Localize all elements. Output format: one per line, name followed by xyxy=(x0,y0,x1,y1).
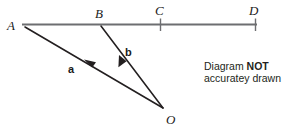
point-label-o: O xyxy=(166,112,176,127)
vector-diagram-figure: A B C D O a b Diagram NOT accuratey draw… xyxy=(0,0,293,131)
diagram-note-emphasis: NOT xyxy=(247,60,269,72)
vector-a-line xyxy=(25,27,163,108)
vector-label-a: a xyxy=(68,63,75,75)
point-label-c: C xyxy=(155,3,164,18)
point-label-d: D xyxy=(248,3,259,18)
vector-b-line xyxy=(101,26,163,108)
vector-label-b: b xyxy=(125,46,132,58)
diagram-note-line-1: Diagram NOT xyxy=(204,60,269,73)
diagram-note-line-2: accuratey drawn xyxy=(204,72,281,85)
point-label-a: A xyxy=(6,18,15,33)
point-label-b: B xyxy=(95,6,103,21)
diagram-note-prefix: Diagram xyxy=(204,60,247,72)
